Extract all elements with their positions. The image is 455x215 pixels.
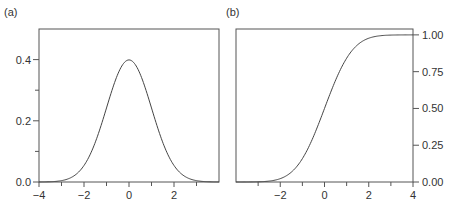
panel-a-plot-frame — [39, 29, 219, 182]
panel-b-cdf-chart: (b) −2024 0.000.250.500.751.00 — [226, 6, 443, 201]
y-tick-label: 0.0 — [16, 176, 31, 188]
panel-a-y-axis: 0.00.20.4 — [16, 54, 39, 188]
y-tick-label: 0.50 — [422, 102, 443, 114]
panel-a-x-axis: −4−202 — [33, 182, 197, 201]
y-tick-label: 0.2 — [16, 115, 31, 127]
panel-b-y-axis: 0.000.250.500.751.00 — [413, 29, 443, 188]
x-tick-label: −4 — [33, 189, 46, 201]
x-tick-label: 2 — [366, 189, 372, 201]
x-tick-label: 2 — [171, 189, 177, 201]
panel-b-plot-frame — [236, 29, 413, 182]
panel-b-x-axis: −2024 — [258, 182, 416, 201]
x-tick-label: 0 — [321, 189, 327, 201]
x-tick-label: −2 — [78, 189, 91, 201]
panel-b-cdf-curve — [236, 35, 413, 182]
x-tick-label: 0 — [126, 189, 132, 201]
y-tick-label: 1.00 — [422, 29, 443, 41]
x-tick-label: 4 — [410, 189, 416, 201]
y-tick-label: 0.4 — [16, 54, 31, 66]
y-tick-label: 0.00 — [422, 176, 443, 188]
y-tick-label: 0.75 — [422, 66, 443, 78]
x-tick-label: −2 — [274, 189, 287, 201]
y-tick-label: 0.25 — [422, 139, 443, 151]
panel-b-label: (b) — [226, 6, 239, 18]
figure: (a) −4−202 0.00.20.4 (b) −2024 0.000.250… — [0, 0, 455, 215]
panel-a-label: (a) — [4, 6, 17, 18]
panel-a-pdf-chart: (a) −4−202 0.00.20.4 — [4, 6, 219, 201]
panel-a-pdf-curve — [39, 60, 219, 182]
